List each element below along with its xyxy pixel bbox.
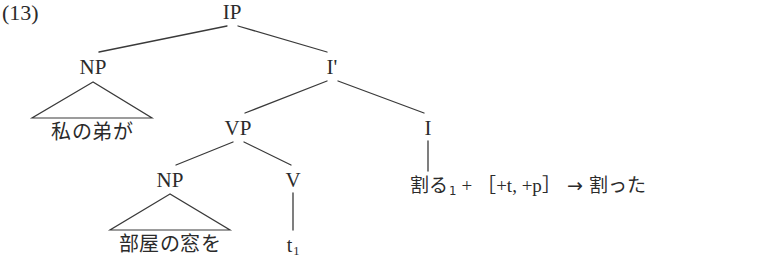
syntax-tree-figure: (13) IP NP I' VP I NP V 私の弟が 部屋の窓を t1 割る… — [0, 0, 760, 267]
node-np-subject: NP — [80, 57, 107, 78]
trace-index: 1 — [292, 244, 299, 258]
node-i: I — [425, 118, 432, 139]
node-ip: IP — [223, 2, 242, 23]
derivation-arrow: → — [561, 174, 589, 196]
np1-triangle — [32, 82, 152, 118]
derivation-bracket-close: ］ — [542, 175, 561, 196]
np2-triangle — [110, 194, 230, 230]
branch-ip-np1 — [99, 26, 227, 52]
node-v: V — [285, 170, 300, 191]
branch-ip-ibar — [238, 26, 327, 52]
morphological-derivation: 割る1+［+t, +p］→割った — [410, 176, 646, 195]
derivation-base-index: 1 — [448, 184, 456, 198]
terminal-object-phrase: 部屋の窓を — [119, 234, 222, 254]
node-np-object: NP — [157, 170, 184, 191]
trace-letter: t — [287, 234, 293, 256]
example-number: (13) — [2, 2, 39, 24]
node-i-bar: I' — [327, 57, 338, 78]
derivation-features: +t, +p — [496, 175, 542, 196]
branch-ibar-vp — [245, 81, 327, 113]
derivation-result: 割った — [589, 174, 646, 196]
terminal-subject-phrase: 私の弟が — [51, 122, 133, 142]
terminal-trace: t1 — [287, 235, 300, 255]
node-vp: VP — [225, 118, 252, 139]
branch-vp-np2 — [176, 142, 233, 165]
branch-vp-v — [244, 142, 291, 165]
derivation-bracket-open: ［ — [477, 175, 496, 196]
branch-ibar-i — [338, 81, 424, 113]
derivation-plus-operator: + — [456, 175, 477, 196]
derivation-base-form: 割る — [410, 174, 448, 196]
